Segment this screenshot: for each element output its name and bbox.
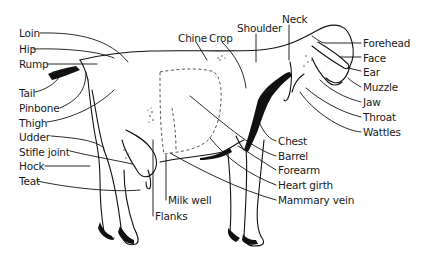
goat-teat	[146, 170, 151, 189]
label-udder: Udder	[19, 131, 50, 143]
heart-girth-outline	[160, 69, 221, 154]
goat-udder	[122, 130, 157, 177]
label-face: Face	[363, 52, 386, 64]
label-thigh: Thigh	[19, 117, 47, 129]
label-flanks: Flanks	[155, 210, 187, 222]
label-mammary-vein: Mammary vein	[278, 194, 354, 206]
label-ear: Ear	[363, 66, 380, 78]
label-stifle-joint: Stifle joint	[19, 146, 70, 158]
front-leg-far	[228, 154, 238, 240]
goat-head	[326, 26, 353, 83]
label-jaw: Jaw	[363, 96, 381, 108]
label-rump: Rump	[19, 58, 49, 70]
label-crop: Crop	[209, 32, 233, 44]
label-teat: Teat	[19, 175, 40, 187]
goat-ear	[312, 42, 349, 69]
label-shoulder: Shoulder	[237, 22, 282, 34]
label-neck: Neck	[282, 13, 307, 25]
label-chest: Chest	[278, 135, 307, 147]
goat-rump	[80, 60, 88, 80]
label-heart-girth: Heart girth	[278, 179, 333, 191]
label-throat: Throat	[363, 111, 396, 123]
label-hock: Hock	[19, 160, 44, 172]
label-forearm: Forearm	[278, 164, 320, 176]
label-tail: Tail	[19, 87, 35, 99]
goat-throat	[292, 74, 304, 92]
label-loin: Loin	[19, 27, 40, 39]
label-pinbone: Pinbone	[19, 102, 59, 114]
goat-jaw	[312, 58, 342, 85]
label-forehead: Forehead	[363, 37, 410, 49]
label-muzzle: Muzzle	[363, 81, 398, 93]
label-chine: Chine	[178, 32, 207, 44]
goat-tail	[48, 66, 80, 80]
label-hip: Hip	[19, 43, 36, 55]
label-barrel: Barrel	[278, 150, 308, 162]
label-milk-well: Milk well	[168, 194, 211, 206]
label-wattles: Wattles	[363, 126, 401, 138]
